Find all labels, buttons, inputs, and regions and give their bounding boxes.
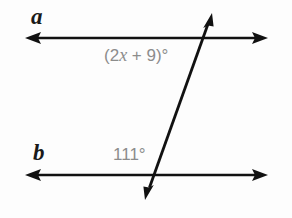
angle-top-prefix: (2	[104, 46, 119, 65]
angle-top-variable: x	[119, 45, 127, 65]
figure-canvas	[0, 0, 292, 218]
angle-top-suffix: + 9)°	[127, 46, 168, 65]
line-b	[25, 169, 268, 181]
line-a-label: a	[31, 5, 43, 28]
line-a	[25, 32, 268, 44]
transversal	[143, 13, 213, 200]
angle-bottom-label: 111°	[113, 146, 146, 163]
angle-top-label: (2x + 9)°	[104, 46, 168, 64]
line-b-label: b	[33, 141, 45, 164]
geometry-figure: a b (2x + 9)° 111°	[0, 0, 292, 218]
